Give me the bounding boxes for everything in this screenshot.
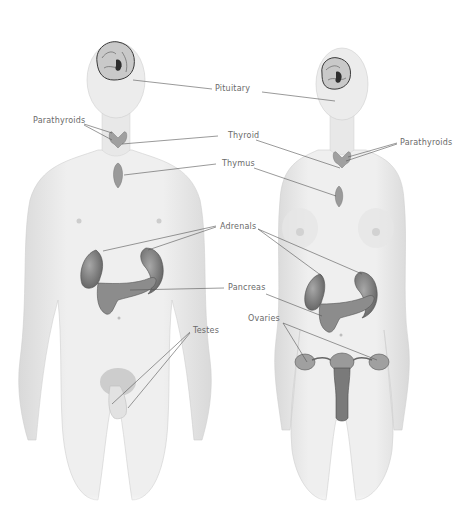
label-adrenals: Adrenals — [220, 222, 256, 232]
endocrine-diagram: Pituitary Parathyroids Parathyroids Thyr… — [0, 0, 466, 513]
label-parathyroids-male: Parathyroids — [33, 116, 85, 126]
label-testes: Testes — [193, 326, 219, 336]
label-parathyroids-female: Parathyroids — [400, 138, 452, 148]
label-thyroid: Thyroid — [228, 131, 259, 141]
label-pancreas: Pancreas — [228, 283, 266, 293]
label-ovaries: Ovaries — [248, 314, 280, 324]
anatomy-illustration — [0, 0, 466, 513]
label-pituitary: Pituitary — [215, 84, 250, 94]
label-thymus: Thymus — [222, 159, 255, 169]
